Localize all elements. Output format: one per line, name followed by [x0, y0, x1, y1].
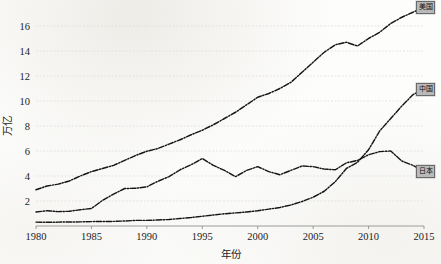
series-line-中国: [36, 89, 424, 223]
x-tick-2010: 2010: [358, 231, 379, 242]
gdp-line-chart: 246810121416 198019851990199520002005201…: [0, 0, 441, 264]
y-tick-4: 4: [25, 171, 31, 182]
series-label-中国: 中国: [416, 83, 435, 96]
x-tick-1990: 1990: [136, 231, 157, 242]
x-axis-title: 年份: [221, 248, 242, 260]
y-tick-2: 2: [25, 196, 30, 207]
y-tick-8: 8: [25, 121, 30, 132]
series-group: [36, 7, 424, 222]
x-tick-1995: 1995: [192, 231, 213, 242]
x-tick-2005: 2005: [303, 231, 324, 242]
gridlines-group: [36, 26, 424, 201]
y-axis-tick-labels: 246810121416: [20, 21, 31, 207]
x-tick-2000: 2000: [247, 231, 268, 242]
x-tick-2015: 2015: [414, 231, 435, 242]
y-tick-6: 6: [25, 146, 30, 157]
y-tick-10: 10: [20, 96, 31, 107]
y-tick-16: 16: [20, 21, 31, 32]
y-axis-title: 万亿: [1, 116, 13, 136]
x-tick-1980: 1980: [26, 231, 47, 242]
y-tick-12: 12: [20, 71, 31, 82]
series-line-美国: [36, 7, 424, 190]
x-axis-tick-labels: 19801985199019952000200520102015: [26, 231, 435, 242]
series-label-美国: 美国: [416, 1, 435, 14]
series-label-日本: 日本: [416, 165, 435, 178]
x-tick-1985: 1985: [81, 231, 102, 242]
series-line-日本: [36, 151, 424, 212]
chart-plot-area: 246810121416 198019851990199520002005201…: [0, 0, 441, 264]
y-tick-14: 14: [20, 46, 31, 57]
axes-group: [36, 226, 424, 229]
